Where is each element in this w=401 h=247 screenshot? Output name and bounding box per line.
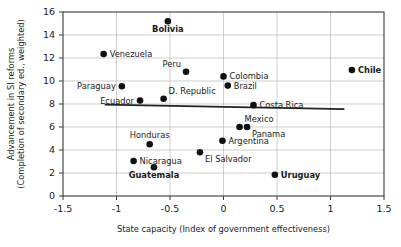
data-point [236,124,243,131]
data-point [100,51,107,58]
data-points-group: BoliviaVenezuelaChilePeruColombiaBrazilP… [77,18,381,180]
data-point [146,141,153,148]
data-point-label: Argentina [228,136,268,146]
x-tick-label: 0.5 [269,203,284,214]
data-point [220,73,227,80]
y-axis-title-line1: Advancement in SI reforms [6,48,16,161]
data-point [197,149,204,156]
chart-canvas: -1.5-1-0.500.511.5 0246810121416 Bolivia… [0,0,401,247]
scatter-chart-figure: -1.5-1-0.500.511.5 0246810121416 Bolivia… [0,0,401,247]
x-axis-ticks: -1.5-1-0.500.511.5 [54,196,392,214]
x-axis-title: State capacity (Index of government effe… [117,224,330,234]
data-point [244,124,251,131]
x-tick-label: 1.5 [376,203,391,214]
data-point [130,158,137,165]
data-point-label: Costa Rica [259,100,303,110]
data-point [137,97,144,104]
data-point-label: D. Republic [169,86,217,96]
y-tick-label: 16 [43,6,55,17]
data-point-label: Peru [163,59,181,69]
data-point-label: Mexico [245,114,274,124]
data-point [160,96,167,103]
data-point-label: Honduras [130,130,170,140]
y-tick-label: 4 [49,144,55,155]
x-tick-label: -0.5 [161,203,180,214]
y-tick-label: 10 [43,75,55,86]
data-point-label: Bolivia [152,24,184,34]
data-point-label: Guatemala [129,170,180,180]
data-point-label: Venezuela [110,49,153,59]
data-point-label: Paraguay [77,81,116,91]
data-point [349,67,356,74]
x-tick-label: -1.5 [54,203,73,214]
y-tick-label: 8 [49,98,55,109]
y-tick-label: 14 [43,29,55,40]
y-axis-ticks: 0246810121416 [43,6,63,201]
data-point-label: Nicaragua [140,156,182,166]
data-point-label: Uruguay [281,170,321,180]
y-tick-label: 0 [49,190,55,201]
trendline-group [105,105,345,110]
x-tick-label: 1 [327,203,333,214]
x-tick-label: -1 [112,203,121,214]
data-point-label: Brazil [234,81,257,91]
data-point [272,171,279,178]
data-point-label: Ecuador [100,96,134,106]
y-axis-title-line2: (Completion of secondary ed., weighted) [16,19,26,189]
data-point [219,138,226,145]
data-point-label: Chile [358,65,382,75]
data-point [183,69,190,76]
data-point [250,102,257,109]
x-tick-label: 0 [220,203,226,214]
data-point-label: El Salvador [205,154,252,164]
data-point [224,82,231,89]
y-tick-label: 6 [49,121,55,132]
y-tick-label: 2 [49,167,55,178]
y-tick-label: 12 [43,52,55,63]
data-point [119,83,126,90]
